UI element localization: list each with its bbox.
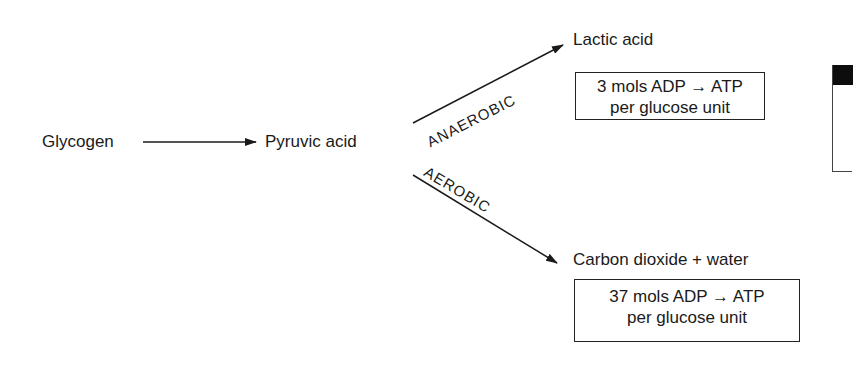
node-pyruvic-acid: Pyruvic acid <box>265 132 357 152</box>
node-glycogen: Glycogen <box>42 132 114 152</box>
yield-anaerobic-line1: 3 mols ADP → ATP <box>576 76 764 97</box>
yield-box-aerobic: 37 mols ADP → ATP per glucose unit <box>574 279 800 342</box>
arrow-aerobic <box>413 175 557 263</box>
node-co2-water: Carbon dioxide + water <box>573 250 748 270</box>
yield-aerobic-line1: 37 mols ADP → ATP <box>575 286 799 307</box>
node-lactic-acid: Lactic acid <box>573 30 653 50</box>
yield-anaerobic-line2: per glucose unit <box>576 97 764 118</box>
cropped-table-edge <box>832 65 852 172</box>
yield-aerobic-line2: per glucose unit <box>575 307 799 328</box>
cropped-table-header <box>833 65 853 85</box>
yield-box-anaerobic: 3 mols ADP → ATP per glucose unit <box>575 72 765 120</box>
